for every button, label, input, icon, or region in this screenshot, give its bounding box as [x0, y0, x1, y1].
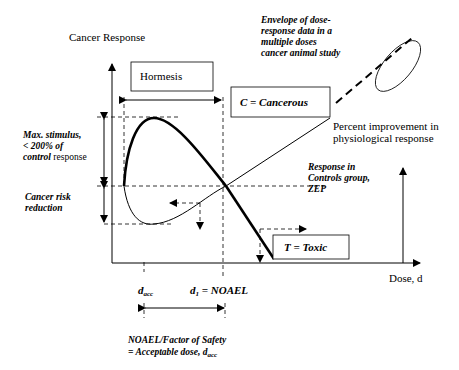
envelope-line-3: multiple doses — [261, 37, 340, 48]
safety-line-2: = Acceptable dose, d — [128, 347, 207, 357]
data-envelope-ellipse — [367, 33, 428, 98]
cancer-risk-annotation: Cancer risk reduction — [25, 192, 71, 214]
controls-line-3: ZEP — [308, 184, 370, 195]
controls-line-1: Response in — [308, 162, 370, 173]
max-stimulus-annotation: Max. stimulus, < 200% of control respons… — [23, 130, 87, 163]
envelope-line-1: Envelope of dose- — [261, 15, 340, 26]
toxic-label: T = Toxic — [284, 241, 327, 253]
hormetic-curve-upper — [124, 118, 226, 186]
safety-line-2-sub: acc — [207, 351, 217, 359]
noael-rest: = NOAEL — [199, 284, 248, 296]
cancer-extrapolation-dashed — [336, 38, 412, 103]
toxic-line — [226, 186, 274, 259]
envelope-line-2: response data in a — [261, 26, 340, 37]
max-stimulus-line-2: < 200% of — [23, 141, 87, 152]
controls-line-2: Controls group, — [308, 173, 370, 184]
envelope-line-4: cancer animal study — [261, 48, 340, 59]
y-axis-label: Cancer Response — [69, 31, 145, 43]
max-stimulus-control: control — [23, 152, 51, 162]
safety-factor-annotation: NOAEL/Factor of Safety = Acceptable dose… — [128, 334, 226, 361]
percent-improvement-annotation: Percent improvement in physiological res… — [333, 120, 439, 144]
percent-line-1: Percent improvement in — [333, 120, 439, 132]
envelope-annotation: Envelope of dose- response data in a mul… — [261, 15, 340, 59]
d-acc-label: dacc — [138, 284, 153, 300]
percent-line-2: physiological response — [333, 132, 439, 144]
d-acc-sub: acc — [144, 290, 154, 298]
max-stimulus-response: response — [51, 152, 87, 162]
hormesis-label: Hormesis — [140, 70, 182, 82]
noael-label: d1 = NOAEL — [190, 284, 248, 300]
cancer-risk-line-1: Cancer risk — [25, 192, 71, 203]
hormetic-curve-lower — [124, 186, 226, 224]
safety-line-1: NOAEL/Factor of Safety — [128, 334, 226, 346]
x-axis-label: Dose, d — [389, 272, 423, 284]
cancer-risk-line-2: reduction — [25, 203, 71, 214]
max-stimulus-line-1: Max. stimulus, — [23, 130, 87, 141]
cancerous-label: C = Cancerous — [240, 96, 308, 108]
dose-response-diagram — [0, 0, 459, 370]
controls-annotation: Response in Controls group, ZEP — [308, 162, 370, 195]
